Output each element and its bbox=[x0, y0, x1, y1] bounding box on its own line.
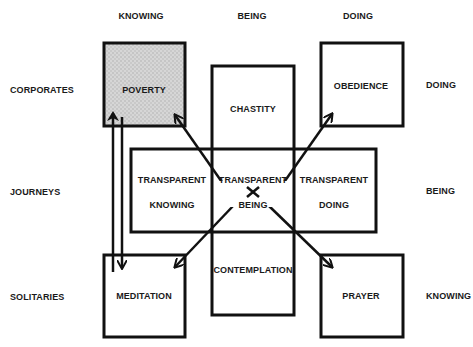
row-label-right-being: BEING bbox=[426, 186, 455, 196]
chastity-label: CHASTITY bbox=[230, 104, 276, 114]
arrow-to-prayer bbox=[268, 205, 332, 267]
row-label-corporates: CORPORATES bbox=[10, 85, 74, 95]
transparent-knowing-line1: TRANSPARENT bbox=[138, 175, 206, 185]
row-label-right-knowing: KNOWING bbox=[426, 291, 471, 301]
transparent-doing-line2: DOING bbox=[319, 200, 349, 210]
row-label-right-doing: DOING bbox=[426, 80, 456, 90]
row-label-solitaries: SOLITARIES bbox=[10, 292, 64, 302]
column-header-being: BEING bbox=[237, 11, 266, 21]
row-label-journeys: JOURNEYS bbox=[10, 187, 60, 197]
obedience-label: OBEDIENCE bbox=[334, 81, 388, 91]
transparent-knowing-line2: KNOWING bbox=[149, 200, 194, 210]
contemplation-label: CONTEMPLATION bbox=[213, 265, 292, 275]
column-header-doing: DOING bbox=[343, 11, 373, 21]
transparent-being-line1: TRANSPARENT bbox=[219, 175, 287, 185]
arrow-to-meditation bbox=[175, 205, 234, 267]
diagram-canvas bbox=[0, 0, 473, 347]
transparent-doing-line1: TRANSPARENT bbox=[300, 175, 368, 185]
transparent-being-line2: BEING bbox=[238, 200, 267, 210]
column-header-knowing: KNOWING bbox=[118, 11, 163, 21]
poverty-label: POVERTY bbox=[122, 85, 166, 95]
meditation-label: MEDITATION bbox=[116, 291, 172, 301]
prayer-label: PRAYER bbox=[342, 291, 379, 301]
